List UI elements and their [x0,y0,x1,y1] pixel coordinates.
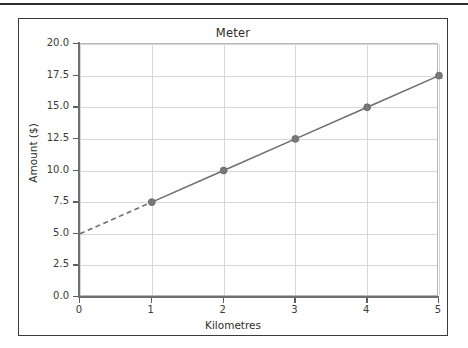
series-line-extrapolated [80,202,152,234]
chart-figure: Meter 0.02.55.07.510.012.515.017.520.0 0… [18,18,448,336]
y-tick-label: 15.0 [35,100,69,111]
x-tick-mark [223,298,224,303]
y-tick-mark [73,75,78,76]
y-tick-mark [73,296,78,297]
chart-title: Meter [19,26,447,40]
gridline-vertical [439,44,440,295]
y-tick-mark [73,138,78,139]
gridline-vertical [80,44,81,295]
y-axis-spine [78,42,80,297]
y-tick-label: 5.0 [35,227,69,238]
y-tick-mark [73,264,78,265]
y-tick-mark [73,43,78,44]
gridline-horizontal [80,76,437,77]
gridline-horizontal [80,107,437,108]
gridline-horizontal [80,234,437,235]
gridline-vertical [152,44,153,295]
x-tick-mark [438,298,439,303]
y-tick-label: 2.5 [35,258,69,269]
y-tick-label: 17.5 [35,69,69,80]
gridline-horizontal [80,265,437,266]
gridline-vertical [224,44,225,295]
x-tick-mark [366,298,367,303]
y-tick-mark [73,233,78,234]
x-tick-label: 2 [211,304,235,315]
gridline-horizontal [80,171,437,172]
gridline-vertical [367,44,368,295]
x-tick-mark [79,298,80,303]
plot-area [79,43,438,296]
x-tick-label: 1 [139,304,163,315]
gridline-horizontal [80,202,437,203]
x-tick-label: 3 [282,304,306,315]
top-rule-divider [0,3,468,5]
y-tick-mark [73,170,78,171]
gridline-horizontal [80,44,437,45]
y-tick-label: 20.0 [35,37,69,48]
gridline-vertical [295,44,296,295]
x-axis-label: Kilometres [19,319,447,331]
x-tick-label: 4 [354,304,378,315]
x-axis-spine [78,296,439,298]
y-tick-label: 12.5 [35,132,69,143]
x-tick-mark [151,298,152,303]
y-tick-label: 10.0 [35,164,69,175]
x-tick-label: 5 [426,304,450,315]
y-axis-label: Amount ($) [27,93,39,213]
x-tick-mark [294,298,295,303]
y-tick-mark [73,201,78,202]
y-tick-label: 0.0 [35,290,69,301]
y-tick-label: 7.5 [35,195,69,206]
y-tick-mark [73,106,78,107]
gridline-horizontal [80,139,437,140]
x-tick-label: 0 [67,304,91,315]
